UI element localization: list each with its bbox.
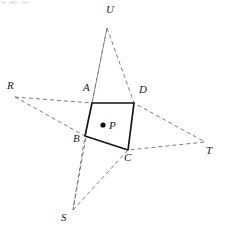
dashed-ray-R-A-U [15, 28, 107, 103]
label-T: T [206, 145, 212, 156]
label-U: U [106, 4, 114, 15]
label-B: B [73, 133, 80, 144]
geometry-figure: A B C D P R S T U [0, 0, 225, 240]
label-C: C [124, 152, 131, 163]
label-D: D [139, 84, 147, 95]
dashed-ray-R-B-S [15, 97, 85, 210]
label-S: S [61, 212, 67, 223]
point-P-dot [100, 122, 105, 127]
dashed-ray-S-C-T [73, 142, 205, 210]
label-R: R [7, 80, 14, 91]
label-A: A [83, 82, 90, 93]
label-P: P [109, 120, 116, 131]
